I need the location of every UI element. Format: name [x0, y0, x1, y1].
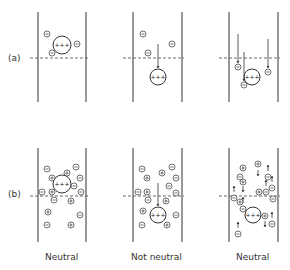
arrow-head-icon [242, 190, 245, 192]
arrow-head-icon [237, 61, 240, 63]
arrow-head-icon [242, 197, 245, 199]
row-label-a: (a) [8, 53, 21, 63]
arrow-head-icon [271, 212, 274, 214]
row-label-b: (b) [8, 189, 21, 199]
arrow-head-icon [265, 180, 268, 182]
arrow-head-icon [237, 222, 240, 224]
arrow-head-icon [264, 225, 267, 227]
central-ion-charge: +++ [244, 73, 259, 80]
arrow-head-icon [257, 174, 260, 176]
arrow-head-icon [157, 66, 160, 68]
arrow-head-icon [267, 165, 270, 167]
arrow-head-icon [233, 186, 236, 188]
central-ion-charge: +++ [245, 211, 260, 218]
caption-not-neutral: Not neutral [131, 252, 182, 262]
caption-neutral-1: Neutral [45, 252, 78, 262]
arrow-head-icon [267, 66, 270, 68]
central-ion-charge: +++ [54, 41, 69, 48]
central-ion-charge: +++ [150, 73, 165, 80]
arrow-head-icon [157, 204, 160, 206]
caption-neutral-2: Neutral [236, 252, 269, 262]
central-ion-charge: +++ [150, 211, 165, 218]
diagram-canvas: ++++++++++++++++++ [0, 0, 290, 270]
central-ion-charge: +++ [54, 180, 69, 187]
